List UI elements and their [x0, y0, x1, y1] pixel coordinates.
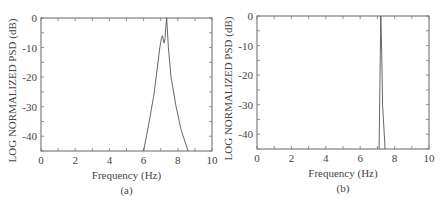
x-axis-label: Frequency (Hz) [308, 167, 378, 180]
y-tick-label: -40 [238, 128, 253, 140]
x-tick-label: 2 [289, 152, 295, 164]
x-axis-label: Frequency (Hz) [92, 169, 162, 182]
x-tick-label: 6 [357, 152, 363, 164]
x-tick-label: 10 [207, 154, 219, 166]
figure-caption: (a) [120, 184, 133, 197]
x-tick-label: 0 [254, 152, 260, 164]
x-tick-label: 6 [141, 154, 147, 166]
plot-frame [41, 18, 212, 151]
y-tick-label: -40 [22, 130, 37, 142]
x-tick-label: 10 [424, 152, 436, 164]
y-tick-label: -10 [238, 40, 253, 52]
y-axis-label: LOG NORMALIZED PSD (dB) [6, 18, 19, 162]
chart-b: 02468100-10-20-30-40Frequency (Hz)LOG NO… [222, 10, 435, 195]
y-tick-label: -20 [22, 71, 37, 83]
x-tick-label: 8 [392, 152, 398, 164]
x-tick-label: 4 [107, 154, 113, 166]
y-tick-label: -20 [238, 69, 253, 81]
y-tick-label: 0 [32, 12, 38, 24]
x-tick-label: 8 [175, 154, 181, 166]
y-tick-label: -30 [238, 99, 253, 111]
figure: 02468100-10-20-30-40Frequency (Hz)LOG NO… [0, 0, 441, 200]
y-axis-label: LOG NORMALIZED PSD (dB) [222, 16, 235, 160]
x-tick-label: 4 [323, 152, 329, 164]
y-tick-label: -10 [22, 42, 37, 54]
y-tick-label: -30 [22, 101, 37, 113]
y-tick-label: 0 [248, 10, 254, 22]
figure-caption: (b) [337, 182, 350, 195]
psd-curve [379, 16, 385, 149]
plot-frame [257, 16, 429, 149]
x-tick-label: 2 [72, 154, 78, 166]
x-tick-label: 0 [38, 154, 44, 166]
chart-a: 02468100-10-20-30-40Frequency (Hz)LOG NO… [6, 12, 218, 197]
psd-curve [144, 18, 189, 151]
